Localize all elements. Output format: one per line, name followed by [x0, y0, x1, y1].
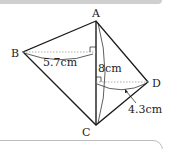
measure-4-3cm: 4.3cm [128, 103, 163, 116]
right-angle-mark-b [90, 47, 96, 52]
answer-box [0, 140, 163, 149]
vertex-label-d: D [152, 77, 161, 90]
quadrilateral-diagram: A B C D 5.7cm 8cm 4.3cm [0, 0, 173, 149]
measure-5-7cm: 5.7cm [43, 56, 78, 69]
right-angle-mark-d [96, 77, 101, 82]
vertex-label-a: A [91, 7, 101, 20]
vertex-label-b: B [11, 47, 19, 60]
measure-8cm: 8cm [98, 62, 122, 75]
vertex-label-c: C [82, 126, 90, 139]
